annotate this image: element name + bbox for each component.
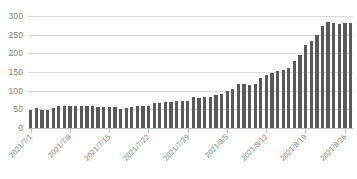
bar[interactable] (349, 23, 352, 128)
y-tick-label-200: 200 (9, 49, 23, 58)
bar[interactable] (102, 107, 105, 128)
bar[interactable] (136, 106, 139, 128)
bar[interactable] (326, 22, 329, 128)
y-tick-label-100: 100 (9, 86, 23, 95)
bar[interactable] (119, 109, 122, 128)
bar[interactable] (153, 103, 156, 128)
bar[interactable] (74, 106, 77, 128)
bar[interactable] (248, 85, 251, 128)
bar[interactable] (108, 107, 111, 128)
x-tick-label: 2021/8/5 (204, 133, 230, 159)
x-tick-label: 2021/8/19 (279, 133, 308, 162)
bar[interactable] (231, 89, 234, 128)
bar-chart: 050100150200250300 2021/7/12021/7/82021/… (0, 0, 357, 179)
bar[interactable] (220, 94, 223, 128)
bar[interactable] (315, 35, 318, 128)
y-axis: 050100150200250300 (0, 16, 26, 128)
bar[interactable] (175, 101, 178, 128)
bar[interactable] (338, 24, 341, 128)
y-tick-label-0: 0 (18, 124, 23, 133)
y-tick-label-150: 150 (9, 68, 23, 77)
bar[interactable] (270, 73, 273, 128)
bar[interactable] (158, 103, 161, 128)
y-tick-label-50: 50 (13, 105, 23, 114)
bar[interactable] (113, 107, 116, 128)
bar[interactable] (321, 26, 324, 128)
bar[interactable] (214, 95, 217, 128)
bar[interactable] (203, 97, 206, 128)
bar[interactable] (282, 70, 285, 128)
bar[interactable] (226, 91, 229, 128)
bar[interactable] (141, 106, 144, 128)
bar[interactable] (164, 102, 167, 128)
bar[interactable] (276, 71, 279, 128)
plot-area (28, 16, 353, 128)
bar[interactable] (52, 108, 55, 128)
bar[interactable] (242, 84, 245, 128)
bar[interactable] (46, 110, 49, 128)
bar[interactable] (298, 55, 301, 128)
bar[interactable] (85, 106, 88, 128)
x-tick-label: 2021/7/8 (47, 133, 73, 159)
bar[interactable] (293, 61, 296, 128)
bar-series (28, 16, 353, 128)
bar[interactable] (63, 106, 66, 128)
bar[interactable] (304, 45, 307, 128)
bar[interactable] (186, 101, 189, 128)
bar[interactable] (265, 75, 268, 128)
bar[interactable] (192, 97, 195, 128)
y-tick-label-250: 250 (9, 30, 23, 39)
bar[interactable] (209, 97, 212, 128)
bar[interactable] (310, 41, 313, 128)
bar[interactable] (237, 84, 240, 128)
x-axis: 2021/7/12021/7/82021/7/152021/7/222021/7… (28, 133, 353, 177)
bar[interactable] (147, 106, 150, 128)
x-tick-label: 2021/7/15 (83, 133, 112, 162)
bar[interactable] (254, 84, 257, 128)
bar[interactable] (57, 106, 60, 128)
bar[interactable] (287, 68, 290, 128)
bar[interactable] (169, 102, 172, 129)
x-tick-label: 2021/8/26 (319, 133, 348, 162)
x-tick-label: 2021/7/22 (122, 133, 151, 162)
bar[interactable] (68, 106, 71, 128)
bar[interactable] (130, 107, 133, 128)
bar[interactable] (332, 23, 335, 128)
bar[interactable] (40, 110, 43, 128)
bar[interactable] (197, 98, 200, 128)
bar[interactable] (29, 110, 32, 128)
bar[interactable] (35, 108, 38, 128)
bar[interactable] (80, 106, 83, 128)
bar-slot (348, 16, 354, 128)
bar[interactable] (181, 101, 184, 128)
x-tick-label: 2021/7/1 (7, 133, 33, 159)
bar[interactable] (96, 107, 99, 128)
bar[interactable] (125, 108, 128, 128)
x-tick-label: 2021/8/12 (240, 133, 269, 162)
bar[interactable] (91, 106, 94, 128)
y-tick-label-300: 300 (9, 12, 23, 21)
x-tick-label: 2021/7/29 (162, 133, 191, 162)
bar[interactable] (343, 23, 346, 128)
bar[interactable] (259, 78, 262, 128)
